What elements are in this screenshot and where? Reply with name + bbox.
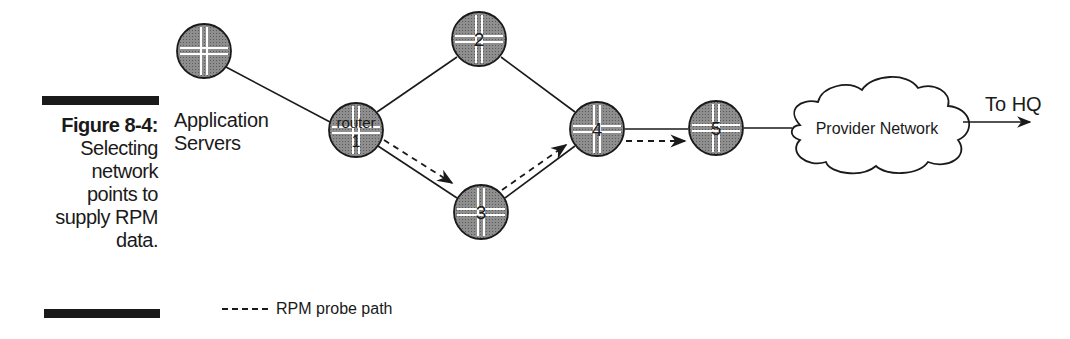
router-node-r2: 2 bbox=[452, 12, 506, 66]
dashed-line-icon bbox=[222, 308, 268, 310]
router-node-r5: 5 bbox=[689, 101, 743, 155]
legend-label: RPM probe path bbox=[276, 300, 393, 318]
probe-r1-r3 bbox=[384, 140, 452, 183]
router-node-r3: 3 bbox=[454, 185, 508, 239]
to-hq-label: To HQ bbox=[985, 93, 1042, 115]
network-diagram: router12345 Provider Network To HQ bbox=[0, 0, 1070, 339]
router-node-r4: 4 bbox=[570, 102, 624, 156]
router-label: 2 bbox=[474, 29, 485, 50]
router-node-r1: router1 bbox=[329, 103, 383, 157]
cloud-label: Provider Network bbox=[816, 120, 940, 137]
router-node-app bbox=[177, 24, 231, 78]
router-number: 1 bbox=[352, 133, 361, 150]
link-r1-r3 bbox=[378, 146, 457, 198]
link-r3-r4 bbox=[505, 146, 575, 198]
probe-r3-r4 bbox=[502, 145, 566, 190]
router-label: 3 bbox=[476, 202, 487, 223]
link-app-r1 bbox=[226, 67, 330, 122]
router-label: router bbox=[336, 114, 375, 131]
router-icon bbox=[177, 24, 231, 78]
router-label: 4 bbox=[592, 119, 603, 140]
provider-network-cloud: Provider Network bbox=[792, 77, 969, 173]
link-r1-r2 bbox=[377, 57, 457, 112]
legend: RPM probe path bbox=[222, 300, 393, 318]
probe-path bbox=[384, 140, 685, 190]
link-r2-r4 bbox=[501, 57, 575, 112]
router-label: 5 bbox=[711, 118, 722, 139]
